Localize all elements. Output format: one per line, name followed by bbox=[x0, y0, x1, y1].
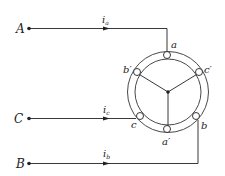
slot-label-b: b bbox=[201, 120, 207, 131]
slot-label-c-prime: c′ bbox=[204, 64, 213, 75]
neutral-point bbox=[166, 90, 170, 94]
arrow-B bbox=[103, 162, 110, 166]
star-connection bbox=[137, 73, 199, 128]
wire-A bbox=[29, 29, 167, 53]
winding-c-prime bbox=[168, 73, 199, 92]
terminal-C: C ic bbox=[14, 104, 136, 126]
slot-label-b-prime: b′ bbox=[123, 64, 132, 75]
current-ib: ib bbox=[103, 148, 110, 160]
arrow-A bbox=[103, 27, 110, 31]
slot-a bbox=[164, 52, 171, 59]
terminal-A-label: A bbox=[15, 22, 25, 36]
slot-b-prime bbox=[134, 69, 141, 76]
three-phase-winding-diagram: A ia C ic B ib a b′ c′ bbox=[0, 0, 225, 176]
wire-B bbox=[29, 120, 198, 164]
slot-label-a-prime: a′ bbox=[162, 136, 171, 147]
slot-label-c: c bbox=[131, 119, 137, 130]
winding-b-prime bbox=[137, 73, 168, 92]
slot-c bbox=[137, 113, 144, 120]
slot-a-prime bbox=[164, 126, 171, 133]
current-ic: ic bbox=[103, 104, 110, 116]
slot-c-prime bbox=[196, 69, 203, 76]
arrow-C bbox=[103, 117, 110, 121]
slot-b bbox=[193, 113, 200, 120]
terminal-B-label: B bbox=[15, 157, 25, 171]
current-ia: ia bbox=[102, 14, 109, 26]
terminal-C-label: C bbox=[14, 112, 23, 126]
slot-label-a: a bbox=[171, 39, 177, 50]
terminal-A: A ia bbox=[15, 14, 167, 52]
